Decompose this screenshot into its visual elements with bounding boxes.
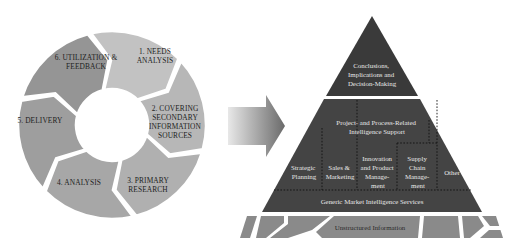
market-intelligence-diagram: 1. NEEDSANALYSIS2. COVERINGSECONDARYINFO…: [0, 0, 510, 251]
cycle-step-4-label: 4. ANALYSIS: [57, 178, 101, 187]
generic-market-intelligence-label: Generic Market Intelligence Services: [321, 198, 424, 205]
cycle-step-5-label: 5. DELIVERY: [17, 116, 63, 125]
unstructured-information-label: Unstructured Information: [335, 224, 406, 231]
column-other: Other: [444, 169, 460, 176]
cycle-step-3-label: 3. PRIMARYRESEARCH: [127, 176, 169, 194]
pyramid-top-label: Conclusions, Implications and Decision-M…: [348, 62, 397, 87]
cycle-step-1-label: 1. NEEDSANALYSIS: [137, 47, 174, 65]
intelligence-cycle: 1. NEEDSANALYSIS2. COVERINGSECONDARYINFO…: [17, 31, 206, 219]
transition-arrow-icon: [228, 95, 285, 157]
